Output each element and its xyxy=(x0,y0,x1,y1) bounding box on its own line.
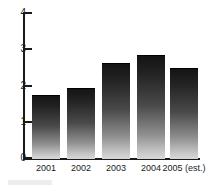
y-tick-label-1: 1 xyxy=(8,117,26,127)
x-tick-label-2002: 2002 xyxy=(61,163,101,174)
y-tick-mark-0 xyxy=(25,157,32,159)
bar-2002 xyxy=(67,88,95,159)
x-tick-label-2003: 2003 xyxy=(96,163,136,174)
bar-2004 xyxy=(137,55,165,159)
y-tick-mark-3 xyxy=(25,48,32,50)
footer-artifact xyxy=(8,180,52,185)
y-tick-label-0: 0 xyxy=(8,153,26,163)
y-tick-mark-1 xyxy=(25,121,32,123)
x-tick-label-2005: 2005 (est.) xyxy=(157,163,208,174)
x-tick-label-2001: 2001 xyxy=(26,163,66,174)
plot-area: 4 3 2 1 0 2001 2002 2003 2004 2005 (est.… xyxy=(0,0,208,187)
bar-2005 xyxy=(170,68,198,159)
bar-2001 xyxy=(32,95,60,159)
y-tick-label-3: 3 xyxy=(8,44,26,54)
y-tick-mark-4 xyxy=(25,12,32,14)
y-tick-mark-2 xyxy=(25,85,32,87)
y-tick-label-4: 4 xyxy=(8,8,26,18)
bar-2003 xyxy=(102,63,130,159)
bar-chart: 4 3 2 1 0 2001 2002 2003 2004 2005 (est.… xyxy=(0,0,208,187)
y-tick-label-2: 2 xyxy=(8,81,26,91)
